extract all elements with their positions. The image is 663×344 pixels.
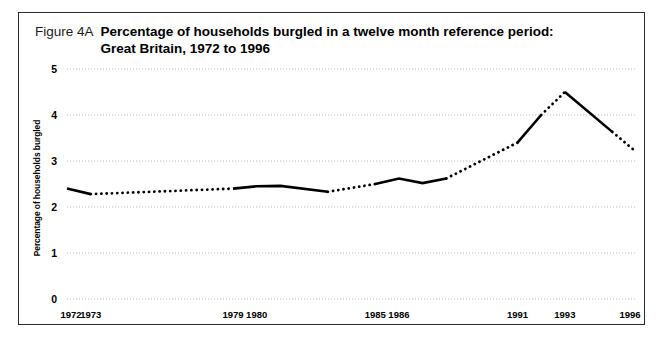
figure-panel: Figure 4A Percentage of households burgl… (18, 12, 645, 325)
x-axis-tick: 1993 (554, 309, 575, 320)
y-axis-tick: 5 (51, 63, 57, 75)
line-chart: 012345 197219731979198019851986199119931… (19, 13, 646, 326)
x-axis-tick: 1996 (619, 309, 640, 320)
y-axis-tick-labels: 012345 (51, 63, 57, 305)
x-axis-tick: 1991 (507, 309, 529, 320)
series-segment-solid (565, 92, 612, 132)
x-axis-tick: 1979 (222, 309, 243, 320)
series-segment-solid (375, 178, 446, 184)
series-segment-dotted (446, 143, 517, 179)
series-segment-solid (233, 186, 328, 192)
y-axis-tick: 3 (51, 155, 57, 167)
x-axis-tick: 1972 (60, 309, 81, 320)
y-axis-tick: 2 (51, 201, 57, 213)
x-axis-tick: 1973 (80, 309, 101, 320)
gridlines (67, 69, 636, 299)
series-segment-dotted (328, 184, 375, 192)
series-segment-dotted (612, 132, 636, 152)
y-axis-tick: 0 (51, 293, 57, 305)
data-series-burglary-rate (67, 92, 636, 194)
plot-area: Percentage of households burgled 012345 … (19, 13, 646, 326)
series-segment-dotted (541, 92, 565, 115)
y-axis-tick: 1 (51, 247, 57, 259)
series-segment-solid (67, 189, 91, 195)
x-axis-tick: 1986 (388, 309, 409, 320)
x-axis-tick: 1980 (246, 309, 267, 320)
x-axis-tick-labels: 197219731979198019851986199119931996 (60, 309, 640, 320)
y-axis-tick: 4 (51, 109, 57, 121)
series-segment-solid (517, 115, 541, 143)
x-axis-tick: 1985 (365, 309, 387, 320)
series-segment-dotted (91, 189, 233, 195)
